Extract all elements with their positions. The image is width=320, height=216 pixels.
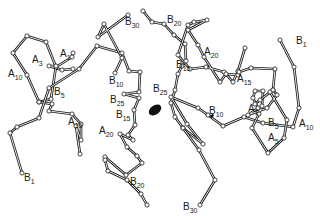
atom-node (181, 126, 185, 130)
residue-label-A5_right: A5 (268, 132, 279, 145)
atom-node (79, 138, 83, 142)
atom-node (139, 192, 143, 196)
atom-node (258, 98, 262, 102)
atom-node (242, 115, 246, 119)
atom-node (201, 142, 205, 146)
atom-node (218, 80, 222, 84)
atom-node (54, 64, 58, 68)
atom-node (205, 18, 209, 22)
atom-node (292, 65, 296, 69)
atom-node (124, 173, 128, 177)
atom-node (137, 90, 141, 94)
atom-node (265, 106, 269, 110)
atom-node (192, 20, 196, 24)
atom-node (184, 59, 188, 63)
atom-node (224, 72, 228, 76)
atom-node (176, 72, 180, 76)
atom-node (122, 92, 126, 96)
atom-node (275, 93, 279, 97)
atom-node (145, 203, 149, 207)
atom-node (261, 89, 265, 93)
zinc-ion-center (147, 102, 164, 117)
atom-node (243, 46, 247, 50)
atom-node (169, 101, 173, 105)
residue-label-A15_right: A15 (237, 73, 252, 86)
atom-node (213, 178, 217, 182)
atom-node (47, 86, 51, 90)
atom-node (196, 43, 200, 47)
atom-node (185, 122, 189, 126)
residue-label-B1_right: B1 (296, 35, 307, 48)
atom-node (140, 161, 144, 165)
residue-label-B25_left: B25 (110, 94, 125, 107)
atom-node (137, 96, 141, 100)
atom-node (138, 70, 142, 74)
residue-label-B1_left: B1 (24, 172, 35, 185)
atom-node (150, 20, 154, 24)
residue-label-A20_left: A20 (99, 125, 114, 138)
atom-node (11, 51, 15, 55)
atom-node (196, 106, 200, 110)
atom-node (78, 152, 82, 156)
residue-label-B20_bottom: B20 (130, 176, 145, 189)
atom-node (204, 65, 208, 69)
atom-node (77, 67, 81, 71)
residue-label-B5_right: B5 (268, 117, 279, 130)
atom-node (49, 97, 53, 101)
atom-node (260, 104, 264, 108)
residue-label-B10_left: B10 (109, 75, 124, 88)
insulin-dimer-backbone-diagram: B30B20A1A3A10B5B10B25B15A20A15B1B20B30B2… (0, 0, 320, 216)
atom-node (131, 138, 135, 142)
atom-node (44, 40, 48, 44)
atom-node (221, 124, 225, 128)
residue-label-B30_bottom: B30 (183, 201, 198, 214)
atom-node (172, 33, 176, 37)
residue-label-B5_left: B5 (54, 86, 65, 99)
atom-node (271, 88, 275, 92)
residue-label-B30_top: B30 (125, 16, 140, 29)
atom-node (169, 95, 173, 99)
atom-node (173, 115, 177, 119)
residue-label-B15_left: B15 (116, 109, 131, 122)
atom-node (253, 89, 257, 93)
atom-node (103, 158, 107, 162)
atom-node (37, 116, 41, 120)
atom-node (25, 73, 29, 77)
atom-node (135, 154, 139, 158)
atom-node (106, 169, 110, 173)
atom-node (251, 96, 255, 100)
atom-node (118, 132, 122, 136)
atom-node (132, 108, 136, 112)
atom-node (291, 125, 295, 129)
atom-node (186, 28, 190, 32)
atom-node (173, 88, 177, 92)
atom-node (282, 136, 286, 140)
atom-node (249, 66, 253, 70)
atom-node (266, 151, 270, 155)
atom-node (102, 22, 106, 26)
atom-node (183, 42, 187, 46)
atom-node (8, 131, 12, 135)
atom-node (250, 126, 254, 130)
atom-node (278, 38, 282, 42)
atom-node (176, 53, 180, 57)
atom-node (47, 109, 51, 113)
atom-node (186, 23, 190, 27)
atom-node (96, 35, 100, 39)
atom-node (47, 64, 51, 68)
residue-labels: B30B20A1A3A10B5B10B25B15A20A15B1B20B30B2… (8, 14, 314, 214)
zinc-ions (147, 102, 215, 118)
atom-node (133, 123, 137, 127)
residue-label-A10_right: A10 (299, 118, 314, 131)
atom-node (231, 80, 235, 84)
atom-node (25, 34, 29, 38)
atom-node (261, 121, 265, 125)
atom-node (120, 56, 124, 60)
atom-node (198, 203, 202, 207)
residue-label-B20_top: B20 (167, 14, 182, 27)
atom-node (95, 44, 99, 48)
atom-node (127, 69, 131, 73)
atom-node (197, 148, 201, 152)
residue-label-A3: A3 (32, 54, 43, 67)
atom-node (71, 51, 75, 55)
